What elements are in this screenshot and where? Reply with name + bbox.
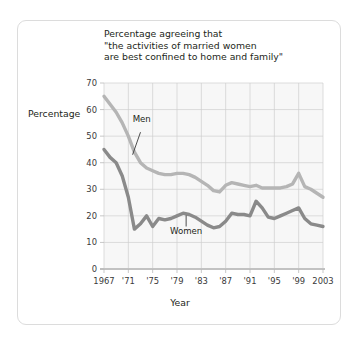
x-tick-label: '79: [171, 276, 184, 286]
x-tick-label: '83: [195, 276, 208, 286]
x-tick-label: 1967: [93, 276, 114, 286]
x-tick-label: '99: [292, 276, 305, 286]
x-tick-label: 2003: [312, 276, 333, 286]
x-tick-label: '95: [268, 276, 281, 286]
x-axis-title: Year: [169, 297, 190, 308]
line-chart: 0102030405060701967'71'75'79'83'87'91'95…: [18, 21, 342, 326]
series-label-women: Women: [170, 226, 202, 236]
series-label-men: Men: [133, 114, 151, 124]
plot-background: [104, 83, 323, 269]
y-axis-title: Percentage: [28, 108, 81, 119]
x-tick-label: '91: [244, 276, 257, 286]
y-tick-label: 0: [92, 264, 97, 274]
y-tick-label: 40: [86, 158, 97, 168]
y-tick-label: 60: [86, 105, 97, 115]
x-tick-label: '75: [146, 276, 159, 286]
x-tick-label: '71: [122, 276, 135, 286]
y-tick-label: 10: [86, 237, 97, 247]
y-tick-label: 30: [86, 184, 97, 194]
y-tick-label: 20: [86, 211, 97, 221]
y-tick-label: 70: [86, 78, 97, 88]
figure-card: Percentage agreeing that "the activities…: [17, 20, 341, 325]
y-tick-label: 50: [86, 131, 97, 141]
x-tick-label: '87: [219, 276, 232, 286]
